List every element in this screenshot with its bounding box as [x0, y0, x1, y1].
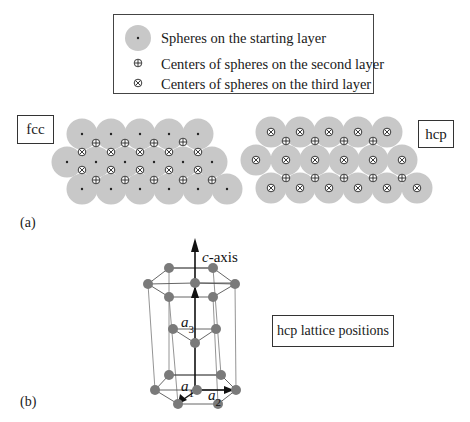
lattice-atom: [164, 263, 174, 273]
circle-x-icon: [340, 156, 348, 164]
lattice-atom: [164, 370, 174, 380]
circle-x-icon: [267, 184, 275, 192]
circle-plus-icon: [121, 176, 129, 184]
circle-plus-icon: [340, 137, 348, 145]
circle-plus-icon: [340, 174, 348, 182]
hcp-lattice: c-axisa3a1a2: [143, 238, 241, 409]
circle-x-icon: [78, 148, 86, 156]
lattice-atom: [190, 278, 200, 288]
circle-plus-icon: [121, 139, 129, 147]
c-axis-label: c-axis: [202, 249, 238, 265]
circle-x-icon: [296, 184, 304, 192]
circle-plus-icon: [150, 176, 158, 184]
panel-b-label: (b): [20, 394, 36, 410]
circle-plus-icon: [311, 137, 319, 145]
circle-x-icon: [311, 156, 319, 164]
fcc-stacking: [52, 119, 243, 205]
lattice-atom: [216, 370, 226, 380]
center-dot-icon: [110, 133, 112, 135]
circle-plus-icon: [92, 139, 100, 147]
circle-x-icon: [325, 184, 333, 192]
circle-x-icon: [194, 148, 202, 156]
circle-x-icon: [354, 184, 362, 192]
circle-plus-icon: [369, 174, 377, 182]
center-dot-icon: [81, 133, 83, 135]
lattice-edge: [148, 284, 155, 390]
center-dot-icon: [226, 188, 228, 190]
center-dot-icon: [211, 161, 213, 163]
lattice-atom: [150, 385, 160, 395]
lattice-edge: [169, 297, 178, 404]
circle-x-icon: [267, 128, 275, 136]
center-dot-icon: [182, 161, 184, 163]
center-dot-icon: [139, 188, 141, 190]
circle-x-icon: [413, 184, 421, 192]
circle-plus-icon: [150, 139, 158, 147]
circle-x-icon: [136, 148, 144, 156]
circle-plus-icon: [282, 174, 290, 182]
a3-label: a3: [181, 314, 195, 335]
lattice-atom: [173, 399, 183, 409]
circle-plus-icon: [208, 176, 216, 184]
circle-plus-icon: [369, 137, 377, 145]
circle-x-icon: [354, 128, 362, 136]
circle-x-icon: [165, 166, 173, 174]
legend-label-second-layer: Centers of spheres on the second layer: [161, 56, 384, 73]
circle-x-icon: [194, 166, 202, 174]
circle-x-icon: [383, 128, 391, 136]
lattice-atom: [230, 279, 240, 289]
hcp-lattice-caption: hcp lattice positions: [272, 315, 394, 347]
circle-plus-icon: [282, 137, 290, 145]
circle-plus-icon: [179, 176, 187, 184]
lattice-edge: [235, 284, 236, 390]
circle-x-icon: [252, 156, 260, 164]
lattice-atom: [211, 324, 221, 334]
hcp-label: hcp: [418, 120, 454, 148]
center-dot-icon: [168, 188, 170, 190]
circle-x-icon: [107, 166, 115, 174]
lattice-atom: [190, 338, 200, 348]
legend: Spheres on the starting layer Centers of…: [113, 14, 374, 94]
center-dot-icon: [95, 161, 97, 163]
lattice-atom: [143, 279, 153, 289]
lattice-atom: [168, 324, 178, 334]
legend-label-third-layer: Centers of spheres on the third layer: [161, 76, 371, 93]
circle-plus-icon: [398, 174, 406, 182]
circle-x-icon: [296, 128, 304, 136]
center-dot-icon: [197, 188, 199, 190]
center-dot-icon: [168, 133, 170, 135]
circle-x-icon: [282, 156, 290, 164]
circle-plus-icon: [92, 176, 100, 184]
legend-label-starting-layer: Spheres on the starting layer: [161, 30, 326, 47]
circle-plus-icon: [179, 138, 187, 146]
center-dot-icon: [197, 133, 199, 135]
center-dot-icon: [153, 161, 155, 163]
center-dot-icon: [66, 161, 68, 163]
lattice-atom: [231, 385, 241, 395]
circle-x-icon: [107, 148, 115, 156]
hcp-stacking: [241, 117, 433, 204]
center-dot-icon: [81, 188, 83, 190]
c-axis-arrowhead-icon: [191, 238, 199, 252]
circle-x-icon: [136, 166, 144, 174]
lattice-bond: [148, 283, 195, 284]
lattice-atom: [208, 292, 218, 302]
circle-x-icon: [165, 148, 173, 156]
circle-plus-icon: [311, 174, 319, 182]
fcc-label: fcc: [17, 115, 54, 144]
panel-a-label: (a): [20, 215, 36, 231]
circle-x-icon: [78, 166, 86, 174]
center-dot-icon: [110, 188, 112, 190]
center-dot-icon: [124, 161, 126, 163]
circle-x-icon: [369, 156, 377, 164]
lattice-atom: [164, 292, 174, 302]
center-dot-icon: [139, 133, 141, 135]
circle-x-icon: [398, 156, 406, 164]
circle-x-icon: [325, 128, 333, 136]
circle-x-icon: [383, 184, 391, 192]
